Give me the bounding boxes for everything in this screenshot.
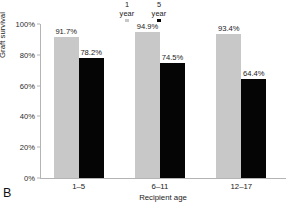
bar-value-label: 94.9% [137, 22, 159, 31]
bar-value-label: 74.5% [162, 53, 184, 62]
x-axis-category-label: 6–11 [123, 182, 197, 191]
bar-5-year-12–17: 64.4% [241, 79, 266, 178]
x-axis-category-label: 1–5 [42, 182, 116, 191]
figure-panel-b: 1 year 5 year Graft survival 0%20%40%60%… [0, 0, 290, 208]
y-axis-tick-mark [37, 54, 40, 55]
plot-area: 0%20%40%60%80%100%91.7%78.2%1–594.9%74.5… [40, 24, 284, 178]
bar-value-label: 93.4% [218, 24, 240, 33]
legend-label-5-year-line2: year [152, 10, 167, 19]
chart-legend: 1 year 5 year [112, 1, 174, 23]
bar-5-year-6–11: 74.5% [160, 63, 185, 178]
x-axis-line [40, 178, 286, 179]
y-axis-tick-mark [37, 147, 40, 148]
bar-value-label: 91.7% [55, 27, 77, 36]
y-axis-tick-mark [37, 178, 40, 179]
legend-entry-1-year: 1 year [114, 1, 140, 23]
bar-1-year-1–5: 91.7% [54, 37, 79, 178]
legend-label-1-year-line2: year [120, 10, 135, 19]
y-axis-tick-mark [37, 24, 40, 25]
y-axis-tick-mark [37, 85, 40, 86]
y-axis-title: Graft survival [0, 12, 7, 58]
bar-group: 91.7%78.2% [54, 24, 104, 178]
legend-entry-5-year: 5 year [146, 1, 172, 23]
bar-1-year-12–17: 93.4% [216, 34, 241, 178]
legend-swatch-1-year [125, 19, 129, 22]
bar-group: 94.9%74.5% [135, 24, 185, 178]
panel-letter: B [3, 186, 11, 200]
bar-5-year-1–5: 78.2% [79, 58, 104, 178]
y-axis-tick-mark [37, 116, 40, 117]
bar-value-label: 64.4% [243, 69, 265, 78]
x-axis-category-label: 12–17 [204, 182, 278, 191]
bar-value-label: 78.2% [80, 48, 102, 57]
bar-1-year-6–11: 94.9% [135, 32, 160, 178]
x-axis-title: Recipient age [40, 193, 286, 202]
bar-group: 93.4%64.4% [216, 24, 266, 178]
